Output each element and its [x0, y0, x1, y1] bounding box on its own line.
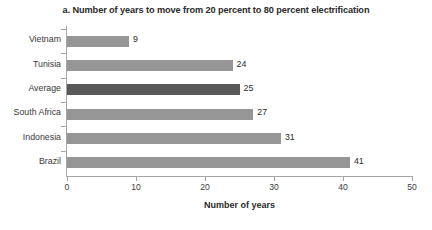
bar [67, 36, 129, 47]
y-axis-tick [61, 78, 66, 79]
x-axis-tick-label: 30 [259, 182, 289, 192]
bar [67, 157, 350, 168]
x-axis-tick [136, 177, 137, 181]
x-axis-tick-label: 50 [397, 182, 427, 192]
x-axis-tick [343, 177, 344, 181]
x-axis-tick-label: 40 [328, 182, 358, 192]
bar-value-label: 24 [237, 59, 247, 69]
y-axis-tick [61, 102, 66, 103]
y-axis-tick [61, 151, 66, 152]
x-axis-tick-label: 0 [52, 182, 82, 192]
category-label: Indonesia [1, 132, 61, 142]
x-axis-tick [67, 177, 68, 181]
bar [67, 60, 233, 71]
category-label: Vietnam [1, 34, 61, 44]
bar-value-label: 31 [285, 132, 295, 142]
chart-title: a. Number of years to move from 20 perce… [0, 5, 432, 15]
category-label: South Africa [1, 107, 61, 117]
x-axis-tick [412, 177, 413, 181]
bar-chart-figure: a. Number of years to move from 20 perce… [0, 0, 432, 230]
x-axis-tick-label: 20 [190, 182, 220, 192]
y-axis-tick [61, 53, 66, 54]
x-axis-title: Number of years [67, 200, 412, 210]
x-axis-tick [205, 177, 206, 181]
y-axis-tick [61, 126, 66, 127]
y-axis-tick [61, 29, 66, 30]
x-axis-tick-label: 10 [121, 182, 151, 192]
bar-value-label: 9 [133, 34, 138, 44]
x-axis-line [66, 176, 413, 177]
bar [67, 84, 240, 95]
x-axis-tick [274, 177, 275, 181]
bar [67, 133, 281, 144]
bar [67, 109, 253, 120]
category-axis-labels: VietnamTunisiaAverageSouth AfricaIndones… [0, 0, 61, 230]
bar-value-label: 25 [244, 83, 254, 93]
category-label: Tunisia [1, 59, 61, 69]
bar-value-label: 27 [257, 107, 267, 117]
bar-value-label: 41 [354, 156, 364, 166]
category-label: Average [1, 83, 61, 93]
plot-area [67, 29, 412, 175]
category-label: Brazil [1, 156, 61, 166]
